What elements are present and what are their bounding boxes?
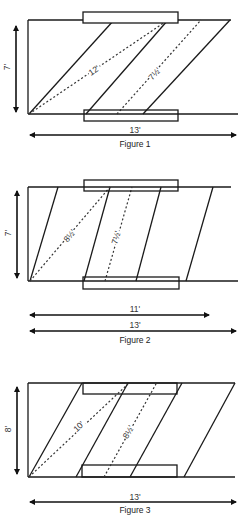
- plank-line: [76, 383, 128, 477]
- plank-line: [186, 187, 213, 281]
- diagonal-label: 12': [86, 63, 101, 78]
- width-label: 13': [129, 125, 140, 135]
- figure-2: 8½' 7½' 7' 11' 13' Figure 2: [3, 180, 238, 345]
- figure-3: 10' 8½' 8' 13' Figure 3: [3, 383, 236, 515]
- figure-1: 12' 7½' 7' 13' Figure 1: [2, 12, 238, 149]
- bottom-support: [82, 465, 177, 477]
- bottom-support: [84, 110, 178, 121]
- figure-caption: Figure 3: [119, 505, 150, 515]
- height-label: 7': [3, 229, 13, 236]
- width-label: 11': [130, 304, 141, 314]
- width-label: 13': [129, 320, 140, 330]
- width-label: 13': [129, 492, 140, 502]
- diagonal-10ft: [117, 20, 201, 114]
- diagram-canvas: 12' 7½' 7' 13' Figure 1 8½': [0, 0, 246, 515]
- figure-caption: Figure 1: [119, 139, 150, 149]
- figure-caption: Figure 2: [119, 335, 150, 345]
- bottom-support: [83, 277, 179, 289]
- plank-line: [30, 187, 58, 281]
- top-support: [83, 383, 177, 394]
- height-label: 8': [3, 425, 13, 432]
- plank-line: [136, 187, 161, 281]
- diagonal-label: 8½': [121, 423, 136, 440]
- plank-line: [84, 187, 110, 281]
- diagonal-label: 7½': [146, 65, 163, 82]
- diagonal-label: 10': [71, 419, 86, 434]
- height-label: 7': [2, 63, 12, 70]
- top-support: [83, 12, 178, 23]
- plank-line: [184, 383, 235, 477]
- top-support: [84, 180, 178, 191]
- plank-line: [130, 383, 182, 477]
- plank-line: [29, 20, 114, 114]
